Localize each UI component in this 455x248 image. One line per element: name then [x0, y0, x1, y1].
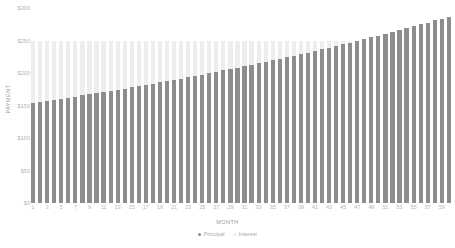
- bar-column[interactable]: [31, 8, 35, 203]
- bar-segment-principal[interactable]: [249, 65, 253, 203]
- bar-segment-interest[interactable]: [214, 41, 218, 72]
- bar-segment-principal[interactable]: [200, 75, 204, 203]
- bar-column[interactable]: [320, 8, 324, 203]
- bar-column[interactable]: [362, 8, 366, 203]
- bar-segment-principal[interactable]: [348, 43, 352, 203]
- bar-column[interactable]: [355, 8, 359, 203]
- bar-segment-principal[interactable]: [390, 32, 394, 203]
- bar-segment-principal[interactable]: [101, 92, 105, 203]
- bar-column[interactable]: [87, 8, 91, 203]
- bar-segment-principal[interactable]: [221, 70, 225, 203]
- bar-segment-interest[interactable]: [172, 41, 176, 80]
- bar-segment-principal[interactable]: [45, 101, 49, 203]
- bar-column[interactable]: [59, 8, 63, 203]
- bar-segment-interest[interactable]: [264, 41, 268, 62]
- bar-column[interactable]: [404, 8, 408, 203]
- bar-segment-principal[interactable]: [80, 95, 84, 203]
- bar-segment-principal[interactable]: [362, 39, 366, 203]
- bar-segment-principal[interactable]: [186, 77, 190, 203]
- bar-segment-interest[interactable]: [94, 41, 98, 94]
- bar-segment-principal[interactable]: [179, 79, 183, 203]
- bar-column[interactable]: [390, 8, 394, 203]
- bar-segment-principal[interactable]: [285, 57, 289, 203]
- bar-segment-interest[interactable]: [306, 41, 310, 53]
- bar-column[interactable]: [376, 8, 380, 203]
- bar-column[interactable]: [257, 8, 261, 203]
- bar-segment-interest[interactable]: [228, 41, 232, 70]
- bar-segment-principal[interactable]: [116, 90, 120, 203]
- bar-segment-interest[interactable]: [59, 41, 63, 99]
- bar-segment-interest[interactable]: [165, 41, 169, 82]
- bar-column[interactable]: [228, 8, 232, 203]
- bar-segment-interest[interactable]: [151, 41, 155, 84]
- bar-segment-interest[interactable]: [327, 41, 331, 48]
- bar-segment-interest[interactable]: [313, 41, 317, 51]
- bar-segment-principal[interactable]: [426, 23, 430, 204]
- bar-column[interactable]: [264, 8, 268, 203]
- bar-segment-principal[interactable]: [299, 54, 303, 203]
- bar-column[interactable]: [186, 8, 190, 203]
- bar-segment-principal[interactable]: [341, 44, 345, 203]
- bar-segment-interest[interactable]: [31, 41, 35, 103]
- bar-column[interactable]: [292, 8, 296, 203]
- bar-column[interactable]: [285, 8, 289, 203]
- bar-segment-principal[interactable]: [137, 86, 141, 203]
- bar-segment-interest[interactable]: [235, 41, 239, 68]
- bar-segment-interest[interactable]: [158, 41, 162, 83]
- bar-segment-principal[interactable]: [242, 66, 246, 203]
- bar-column[interactable]: [348, 8, 352, 203]
- bar-column[interactable]: [130, 8, 134, 203]
- bar-segment-principal[interactable]: [31, 103, 35, 203]
- bar-segment-interest[interactable]: [87, 41, 91, 95]
- bar-segment-principal[interactable]: [130, 87, 134, 203]
- bar-column[interactable]: [158, 8, 162, 203]
- bar-column[interactable]: [242, 8, 246, 203]
- bar-segment-principal[interactable]: [334, 46, 338, 203]
- bar-column[interactable]: [80, 8, 84, 203]
- bar-segment-principal[interactable]: [66, 98, 70, 203]
- bar-segment-principal[interactable]: [327, 48, 331, 203]
- bar-segment-interest[interactable]: [186, 41, 190, 78]
- bar-column[interactable]: [271, 8, 275, 203]
- bar-segment-principal[interactable]: [207, 73, 211, 203]
- bar-segment-interest[interactable]: [278, 41, 282, 59]
- bar-column[interactable]: [334, 8, 338, 203]
- bar-segment-interest[interactable]: [116, 41, 120, 90]
- bar-segment-principal[interactable]: [235, 68, 239, 203]
- bar-segment-principal[interactable]: [440, 19, 444, 203]
- bar-column[interactable]: [327, 8, 331, 203]
- bar-column[interactable]: [151, 8, 155, 203]
- bar-segment-principal[interactable]: [144, 85, 148, 203]
- bar-segment-interest[interactable]: [200, 41, 204, 75]
- bar-segment-interest[interactable]: [45, 41, 49, 101]
- bar-column[interactable]: [447, 8, 451, 203]
- bar-column[interactable]: [412, 8, 416, 203]
- bar-segment-principal[interactable]: [123, 89, 127, 203]
- bar-segment-principal[interactable]: [38, 102, 42, 203]
- bar-segment-principal[interactable]: [313, 51, 317, 203]
- bar-segment-interest[interactable]: [73, 41, 77, 97]
- bar-segment-principal[interactable]: [306, 53, 310, 203]
- bar-column[interactable]: [172, 8, 176, 203]
- bar-segment-interest[interactable]: [52, 41, 56, 100]
- bar-segment-principal[interactable]: [165, 81, 169, 203]
- bar-segment-principal[interactable]: [158, 82, 162, 203]
- bar-column[interactable]: [440, 8, 444, 203]
- bar-segment-principal[interactable]: [376, 36, 380, 203]
- bar-segment-interest[interactable]: [320, 41, 324, 50]
- bar-column[interactable]: [144, 8, 148, 203]
- bar-column[interactable]: [249, 8, 253, 203]
- bar-segment-principal[interactable]: [369, 37, 373, 203]
- bar-column[interactable]: [299, 8, 303, 203]
- bar-segment-principal[interactable]: [404, 28, 408, 203]
- bar-column[interactable]: [235, 8, 239, 203]
- bar-segment-principal[interactable]: [193, 76, 197, 203]
- bar-segment-principal[interactable]: [264, 62, 268, 203]
- bar-segment-principal[interactable]: [397, 30, 401, 203]
- bar-column[interactable]: [101, 8, 105, 203]
- bar-segment-interest[interactable]: [257, 41, 261, 64]
- bar-segment-interest[interactable]: [285, 41, 289, 58]
- bar-segment-principal[interactable]: [151, 84, 155, 203]
- bar-column[interactable]: [123, 8, 127, 203]
- bar-segment-interest[interactable]: [80, 41, 84, 96]
